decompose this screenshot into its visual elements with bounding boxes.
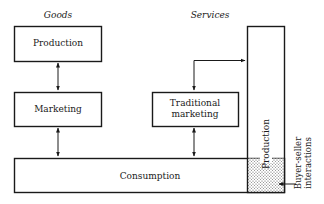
goods-heading: Goods [44,10,73,20]
services-production-label: Production [261,119,271,169]
consumption-label: Consumption [120,171,181,181]
buyer-seller-label-line1: Buyer-seller [293,136,303,189]
goods-production-label: Production [33,38,83,48]
goods-marketing-label: Marketing [34,104,82,114]
services-heading: Services [191,10,230,20]
traditional-marketing-production-connector [194,61,245,91]
traditional-marketing-label-line2: marketing [171,109,218,119]
buyer-seller-label-line2: interactions [303,137,313,189]
goods-services-diagram: Goods Services Production Marketing Trad… [0,0,324,204]
traditional-marketing-label-line1: Traditional [170,98,220,108]
